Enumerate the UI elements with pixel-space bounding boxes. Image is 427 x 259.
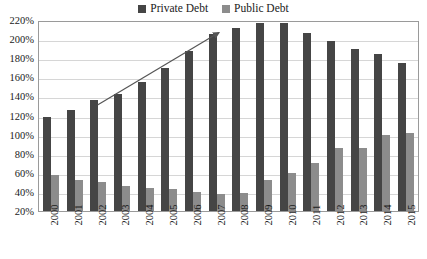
- bar-group: [157, 22, 181, 211]
- x-axis-tick: 2002: [86, 213, 110, 259]
- bar-private-debt: [161, 68, 169, 211]
- y-axis-tick-label: 140%: [0, 92, 34, 103]
- x-axis-tick: 2012: [324, 213, 348, 259]
- bar-private-debt: [232, 28, 240, 211]
- x-axis-tick: 2010: [276, 213, 300, 259]
- x-axis-tick: 2003: [109, 213, 133, 259]
- bar-private-debt: [114, 94, 122, 211]
- bar-private-debt: [43, 117, 51, 211]
- bar-group: [276, 22, 300, 211]
- bar-group: [323, 22, 347, 211]
- bar-private-debt: [351, 49, 359, 211]
- x-axis-tick: 2009: [252, 213, 276, 259]
- square-swatch-icon: [138, 5, 146, 13]
- legend-entry-private-debt: Private Debt: [138, 3, 208, 15]
- x-axis-tick-label: 2010: [288, 205, 299, 226]
- x-axis-tick-label: 2011: [312, 205, 323, 226]
- legend-label-private-debt: Private Debt: [150, 3, 208, 15]
- bar-group: [86, 22, 110, 211]
- bar-public-debt: [359, 148, 367, 211]
- legend-entry-public-debt: Public Debt: [222, 3, 289, 15]
- bar-group: [347, 22, 371, 211]
- x-axis-tick: 2014: [371, 213, 395, 259]
- bar-private-debt: [374, 54, 382, 211]
- bar-group: [205, 22, 229, 211]
- bar-private-debt: [209, 34, 217, 211]
- x-axis-tick-label: 2002: [98, 205, 109, 226]
- bar-public-debt: [335, 148, 343, 211]
- square-swatch-icon: [222, 5, 230, 13]
- x-axis-tick: 2000: [38, 213, 62, 259]
- x-axis-tick: 2005: [157, 213, 181, 259]
- x-axis-tick: 2015: [395, 213, 419, 259]
- x-axis-tick: 2008: [229, 213, 253, 259]
- chart-legend: Private Debt Public Debt: [0, 1, 427, 17]
- bar-group: [229, 22, 253, 211]
- x-axis-tick: 2001: [62, 213, 86, 259]
- bar-series-container: [39, 22, 418, 211]
- bar-group: [110, 22, 134, 211]
- y-axis-tick-label: 40%: [0, 188, 34, 199]
- bar-private-debt: [280, 23, 288, 211]
- bar-private-debt: [138, 82, 146, 211]
- bar-public-debt: [406, 133, 414, 211]
- legend-label-public-debt: Public Debt: [234, 3, 289, 15]
- x-axis-tick-label: 2000: [50, 205, 61, 226]
- x-axis-tick-label: 2006: [193, 205, 204, 226]
- bar-group: [252, 22, 276, 211]
- bar-private-debt: [185, 51, 193, 211]
- x-axis: 2000200120022003200420052006200720082009…: [38, 213, 419, 259]
- bar-private-debt: [90, 100, 98, 211]
- bar-group: [181, 22, 205, 211]
- bar-private-debt: [303, 33, 311, 211]
- x-axis-tick: 2006: [181, 213, 205, 259]
- y-axis-tick-label: 20%: [0, 207, 34, 218]
- x-axis-tick-label: 2005: [169, 205, 180, 226]
- bar-group: [134, 22, 158, 211]
- bar-group: [63, 22, 87, 211]
- x-axis-tick-label: 2014: [383, 205, 394, 226]
- y-axis-tick-label: 180%: [0, 54, 34, 65]
- bar-private-debt: [67, 110, 75, 211]
- x-axis-tick-label: 2012: [336, 205, 347, 226]
- x-axis-tick-label: 2008: [240, 205, 251, 226]
- bar-group: [371, 22, 395, 211]
- x-axis-tick-label: 2009: [264, 205, 275, 226]
- bar-group: [39, 22, 63, 211]
- bar-group: [394, 22, 418, 211]
- y-axis-tick-label: 220%: [0, 16, 34, 27]
- bar-public-debt: [382, 135, 390, 211]
- plot-area: [38, 21, 419, 212]
- y-axis-tick-label: 200%: [0, 35, 34, 46]
- x-axis-tick: 2004: [133, 213, 157, 259]
- bar-private-debt: [398, 63, 406, 211]
- x-axis-tick: 2007: [205, 213, 229, 259]
- x-axis-tick-label: 2007: [217, 205, 228, 226]
- x-axis-tick-label: 2004: [145, 205, 156, 226]
- y-axis-tick-label: 100%: [0, 131, 34, 142]
- x-axis-tick-label: 2015: [407, 205, 418, 226]
- x-axis-tick: 2013: [348, 213, 372, 259]
- bar-group: [300, 22, 324, 211]
- x-axis-tick-label: 2003: [121, 205, 132, 226]
- y-axis-tick-label: 120%: [0, 112, 34, 123]
- x-axis-tick-label: 2001: [74, 205, 85, 226]
- y-axis-tick-label: 80%: [0, 150, 34, 161]
- y-axis-tick-label: 60%: [0, 169, 34, 180]
- y-axis-tick-label: 160%: [0, 73, 34, 84]
- x-axis-tick: 2011: [300, 213, 324, 259]
- bar-private-debt: [256, 23, 264, 211]
- x-axis-tick-label: 2013: [359, 205, 370, 226]
- debt-bar-chart-figure: Private Debt Public Debt 220%200%180%160…: [0, 0, 427, 259]
- bar-private-debt: [327, 41, 335, 211]
